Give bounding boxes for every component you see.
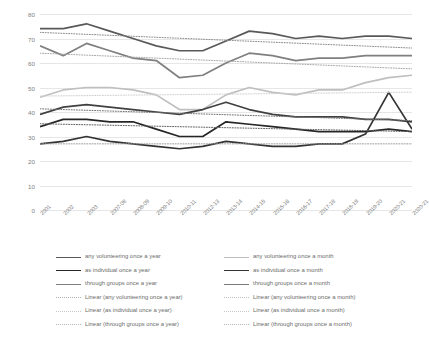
series-line-7: [40, 53, 412, 69]
series-line-2: [40, 75, 412, 109]
legend-swatch-dotted-icon: [224, 324, 249, 325]
legend-swatch-solid-icon: [56, 284, 81, 285]
legend-item[interactable]: Linear (through groups once a year): [56, 320, 224, 330]
y-tick-label-30: 30: [28, 133, 35, 140]
y-tick-label-0: 0: [32, 207, 35, 214]
legend-swatch-dotted-icon: [224, 297, 249, 298]
series-lines: [40, 14, 412, 210]
legend-swatch-solid-icon: [56, 257, 81, 258]
legend-swatch-solid-icon: [56, 270, 81, 271]
series-line-3: [40, 102, 412, 122]
y-tick-label-10: 10: [28, 182, 35, 189]
legend-label: Linear (through groups once a year): [85, 322, 179, 328]
x-tick-label-16: 2020-21: [411, 198, 429, 216]
legend-label: as individual once a month: [253, 268, 323, 274]
legend-label: any volunteering once a month: [253, 254, 334, 260]
legend-label: Linear (as individual once a month): [253, 308, 345, 314]
legend-item[interactable]: Linear (any volunteering once a year): [56, 293, 224, 303]
legend-item[interactable]: Linear (as individual once a year): [56, 306, 224, 316]
legend-item[interactable]: through groups once a month: [224, 279, 416, 289]
legend-swatch-dotted-icon: [56, 311, 81, 312]
legend-label: Linear (as individual once a year): [85, 308, 172, 314]
legend-label: through groups once a month: [253, 281, 330, 287]
legend-item[interactable]: any volunteering once a year: [56, 252, 224, 262]
y-tick-label-20: 20: [28, 158, 35, 165]
legend-item[interactable]: as individual once a month: [224, 266, 416, 276]
legend-swatch-dotted-icon: [56, 297, 81, 298]
legend-item[interactable]: Linear (through groups once a month): [224, 320, 416, 330]
y-tick-label-80: 80: [28, 11, 35, 18]
legend-label: Linear (through groups once a month): [253, 322, 352, 328]
chart-legend: any volunteering once a yearas individua…: [56, 252, 416, 334]
legend-item[interactable]: Linear (as individual once a month): [224, 306, 416, 316]
legend-label: through groups once a year: [85, 281, 157, 287]
y-tick-label-50: 50: [28, 84, 35, 91]
series-line-1: [40, 43, 412, 77]
series-line-10: [40, 124, 412, 132]
legend-label: any volunteering once a year: [85, 254, 161, 260]
legend-item[interactable]: as individual once a year: [56, 266, 224, 276]
legend-swatch-dotted-icon: [56, 324, 81, 325]
x-axis-ticks: 2001200220032007-082008-092009-102010-11…: [40, 210, 412, 256]
legend-swatch-solid-icon: [224, 270, 249, 271]
legend-swatch-solid-icon: [224, 284, 249, 285]
legend-label: as individual once a year: [85, 268, 150, 274]
legend-item[interactable]: any volunteering once a month: [224, 252, 416, 262]
y-tick-label-60: 60: [28, 60, 35, 67]
legend-item[interactable]: Linear (any volunteering once a month): [224, 293, 416, 303]
legend-item[interactable]: through groups once a year: [56, 279, 224, 289]
series-line-4: [40, 119, 412, 136]
legend-swatch-solid-icon: [224, 257, 249, 258]
legend-label: Linear (any volunteering once a year): [85, 295, 183, 301]
legend-swatch-dotted-icon: [224, 311, 249, 312]
y-tick-label-70: 70: [28, 35, 35, 42]
y-tick-label-40: 40: [28, 109, 35, 116]
plot-area: 01020304050607080: [40, 14, 412, 210]
legend-label: Linear (any volunteering once a month): [253, 295, 356, 301]
